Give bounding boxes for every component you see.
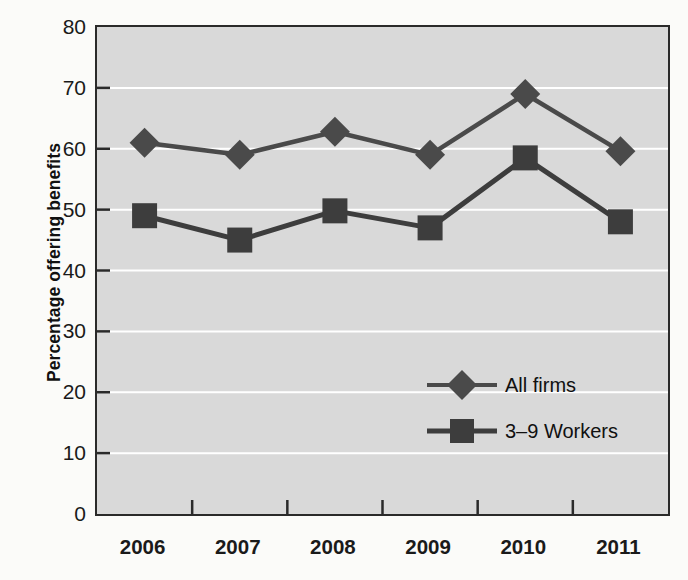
y-tick-label: 70 [42, 77, 86, 98]
chart-figure: Percentage offering benefits 01020304050… [0, 0, 688, 580]
y-tick-label: 80 [42, 16, 86, 37]
data-point-marker [132, 203, 157, 228]
data-point-marker [605, 136, 635, 166]
data-point-marker [322, 198, 347, 223]
data-point-marker [415, 140, 445, 170]
legend-key-diamond-icon [425, 370, 499, 400]
y-tick-label: 30 [42, 320, 86, 341]
x-tick-label: 2009 [380, 537, 476, 558]
x-tick-label: 2010 [475, 537, 571, 558]
chart-legend: All firms 3–9 Workers [425, 362, 655, 454]
y-tick-label: 40 [42, 260, 86, 281]
y-tick-label: 50 [42, 199, 86, 220]
x-axis-tick-labels: 200620072008200920102011 [95, 537, 670, 567]
legend-item-small-firms: 3–9 Workers [425, 408, 655, 454]
data-point-marker [418, 215, 443, 240]
series-line-0 [145, 94, 621, 155]
x-tick-label: 2011 [570, 537, 666, 558]
legend-item-all-firms: All firms [425, 362, 655, 408]
data-point-marker [320, 117, 350, 147]
data-point-marker [608, 209, 633, 234]
y-tick-label: 10 [42, 442, 86, 463]
legend-key-square-icon [425, 416, 499, 446]
y-tick-label: 20 [42, 381, 86, 402]
x-tick-label: 2006 [95, 537, 191, 558]
x-tick-label: 2007 [190, 537, 286, 558]
data-point-marker [225, 140, 255, 170]
data-point-marker [510, 79, 540, 109]
legend-label-all-firms: All firms [499, 374, 576, 397]
x-tick-label: 2008 [285, 537, 381, 558]
y-tick-label: 0 [42, 503, 86, 524]
series-line-1 [145, 158, 621, 240]
y-axis-tick-labels: 01020304050607080 [42, 0, 86, 580]
data-point-marker [227, 228, 252, 253]
data-point-marker [130, 128, 160, 158]
y-tick-label: 60 [42, 138, 86, 159]
data-point-marker [513, 145, 538, 170]
legend-label-small-firms: 3–9 Workers [499, 420, 618, 443]
